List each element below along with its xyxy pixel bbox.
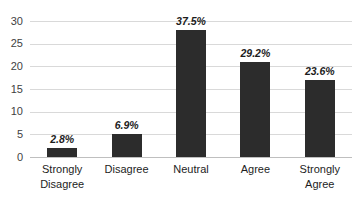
y-tick-label-10: 10 [0, 106, 23, 117]
y-tick-label-20: 20 [0, 61, 23, 72]
plot-area: 051015202530 2.8%6.9%37.5%29.2%23.6% Str… [0, 0, 352, 208]
bar-4[interactable] [305, 80, 335, 157]
x-label-line: Strongly [30, 162, 94, 177]
x-axis-label-4: StronglyAgree [288, 162, 352, 191]
x-axis-label-0: StronglyDisagree [30, 162, 94, 191]
x-label-line: Neutral [159, 162, 223, 177]
bar-2[interactable] [176, 30, 206, 157]
y-tick-label-25: 25 [0, 38, 23, 49]
y-tick-label-0: 0 [0, 152, 23, 163]
data-label-2: 37.5% [171, 16, 211, 27]
bar-3[interactable] [240, 62, 270, 157]
x-axis-label-3: Agree [223, 162, 287, 177]
y-tick-label-30: 30 [0, 16, 23, 27]
bar-chart: 051015202530 2.8%6.9%37.5%29.2%23.6% Str… [0, 0, 352, 208]
data-label-3: 29.2% [235, 48, 275, 59]
y-tick-label-15: 15 [0, 84, 23, 95]
bar-0[interactable] [47, 148, 77, 157]
data-label-4: 23.6% [300, 66, 340, 77]
x-label-line: Agree [223, 162, 287, 177]
x-label-line: Disagree [30, 177, 94, 192]
x-axis-label-1: Disagree [94, 162, 158, 177]
x-axis-label-2: Neutral [159, 162, 223, 177]
data-label-1: 6.9% [107, 120, 147, 131]
x-label-line: Strongly [288, 162, 352, 177]
x-label-line: Disagree [94, 162, 158, 177]
y-tick-label-5: 5 [0, 129, 23, 140]
x-label-line: Agree [288, 177, 352, 192]
data-label-0: 2.8% [42, 134, 82, 145]
bar-1[interactable] [112, 134, 142, 157]
